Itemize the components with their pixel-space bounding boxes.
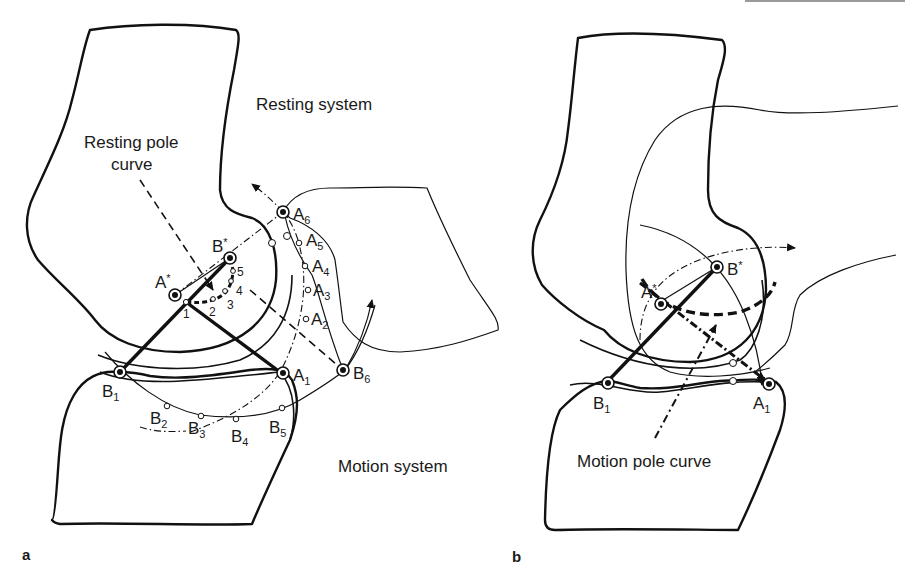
b-locus-arrow xyxy=(345,300,372,370)
panel-label-a: a xyxy=(22,546,31,563)
label-a5: A5 xyxy=(306,231,323,252)
pole-marker-b6 xyxy=(337,364,349,376)
label-motion-system: Motion system xyxy=(338,457,448,476)
moving-segment-outline-b xyxy=(626,106,898,376)
pole-marker-a6 xyxy=(277,206,289,218)
label-b3: B3 xyxy=(188,419,205,440)
label-a2: A2 xyxy=(311,310,328,331)
pole-number-1: 1 xyxy=(183,307,190,321)
pole-number-2: 2 xyxy=(209,305,216,319)
femoral-condyle-curve xyxy=(98,275,292,368)
resting-pole-leader xyxy=(140,180,213,290)
pole-marker-b-star xyxy=(224,252,236,264)
pole-marker-a1 xyxy=(277,367,289,379)
pole-marker-b-star-b xyxy=(711,261,723,273)
label-b-star-b: B* xyxy=(727,259,743,279)
kinematics-diagram: Resting system Motion system Resting pol… xyxy=(0,0,912,586)
moving-segment-lower-b xyxy=(755,255,896,372)
b-locus-curve xyxy=(105,305,375,417)
hollow-point-1 xyxy=(730,360,737,367)
femur-outline-a xyxy=(27,25,276,352)
label-b5: B5 xyxy=(269,418,286,439)
panel-b: Motion pole curve B* A* B1 A1 b xyxy=(512,34,898,565)
label-b1-b: B1 xyxy=(593,394,610,415)
bar-b1-bstar-b xyxy=(608,267,717,381)
label-b6: B6 xyxy=(353,364,370,385)
locus-points-a xyxy=(164,233,311,422)
label-a6: A6 xyxy=(293,205,310,226)
pole-number-5: 5 xyxy=(237,265,244,279)
panel-label-b: b xyxy=(512,548,521,565)
pole-number-3: 3 xyxy=(227,298,234,312)
pole-marker-b1-b xyxy=(602,377,614,389)
label-a1: A1 xyxy=(293,366,310,387)
arc-lower-b xyxy=(580,280,763,368)
pole-number-4: 4 xyxy=(236,284,243,298)
label-a1-b: A1 xyxy=(753,394,770,415)
tibia-outline-a xyxy=(52,369,297,525)
label-b4: B4 xyxy=(231,427,248,448)
label-resting-pole-curve-1: Resting pole xyxy=(84,133,179,152)
a-locus-curve xyxy=(190,212,304,432)
label-a-star: A* xyxy=(155,272,171,292)
label-a4: A4 xyxy=(312,257,329,278)
label-b1: B1 xyxy=(102,382,119,403)
label-a-star-b: A* xyxy=(641,282,657,302)
pole-marker-a-star-b xyxy=(655,298,667,310)
label-b2: B2 xyxy=(150,409,167,430)
label-resting-system: Resting system xyxy=(256,95,372,114)
hollow-point-2 xyxy=(730,378,737,385)
label-motion-pole-curve: Motion pole curve xyxy=(577,452,711,471)
label-a3: A3 xyxy=(313,281,330,302)
panel-a: Resting system Motion system Resting pol… xyxy=(22,25,498,563)
label-resting-pole-curve-2: curve xyxy=(111,155,153,174)
bar-astar-bstar xyxy=(175,258,230,295)
pole-marker-b1 xyxy=(114,366,126,378)
pole-marker-a1-b xyxy=(763,378,775,390)
pole-marker-a-star xyxy=(169,289,181,301)
